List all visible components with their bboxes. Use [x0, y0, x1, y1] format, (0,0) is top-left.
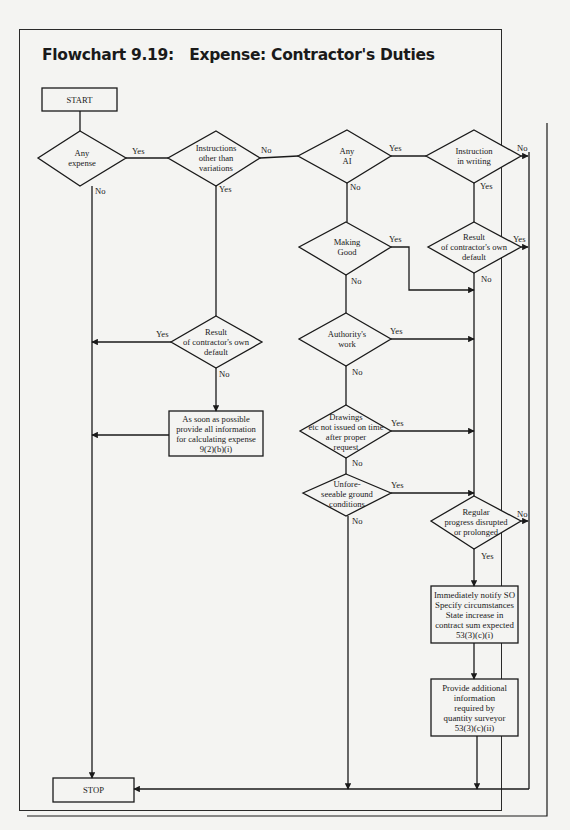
asap-box-node: As soon as possible provide all informat…	[169, 411, 263, 456]
yes-label: Yes	[480, 181, 493, 191]
authority-work-node: Authority's work	[304, 324, 390, 354]
yes-label: Yes	[389, 143, 402, 153]
yes-label: Yes	[132, 146, 145, 156]
no-label: No	[352, 367, 363, 377]
no-label: No	[517, 509, 528, 519]
no-label: No	[95, 186, 106, 196]
regular-progress-node: Regular progress disrupted or prolonged	[428, 505, 524, 539]
no-label: No	[481, 274, 492, 284]
no-label: No	[351, 276, 362, 286]
yes-label: Yes	[513, 234, 526, 244]
unforeseeable-node: Unfore- seeable ground conditions	[304, 478, 390, 510]
notify-box-node: Immediately notify SO Specify circumstan…	[431, 586, 518, 643]
yes-label: Yes	[391, 418, 404, 428]
no-label: No	[261, 145, 272, 155]
provide-box-node: Provide additional information required …	[431, 679, 518, 736]
no-label: No	[350, 182, 361, 192]
no-label: No	[517, 143, 528, 153]
making-good-node: Making Good	[304, 232, 390, 262]
yes-label: Yes	[391, 480, 404, 490]
no-label: No	[352, 458, 363, 468]
no-label: No	[219, 369, 230, 379]
yes-label: Yes	[219, 184, 232, 194]
any-expense-node: Any expense	[44, 140, 120, 176]
stop-node: STOP	[53, 778, 134, 802]
yes-label: Yes	[156, 329, 169, 339]
instruction-writing-node: Instruction in writing	[430, 140, 518, 172]
start-node: START	[42, 88, 117, 111]
result-default-left-node: Result of contractor's own default	[166, 325, 266, 359]
yes-label: Yes	[481, 551, 494, 561]
yes-label: Yes	[390, 326, 403, 336]
result-default-right-node: Result of contractor's own default	[424, 230, 524, 264]
no-label: No	[352, 516, 363, 526]
drawings-node: Drawings etc not issued on time after pr…	[296, 410, 396, 454]
any-ai-node: Any AI	[304, 140, 390, 172]
instructions-other-node: Instructions other than variations	[172, 137, 260, 179]
yes-label: Yes	[389, 234, 402, 244]
